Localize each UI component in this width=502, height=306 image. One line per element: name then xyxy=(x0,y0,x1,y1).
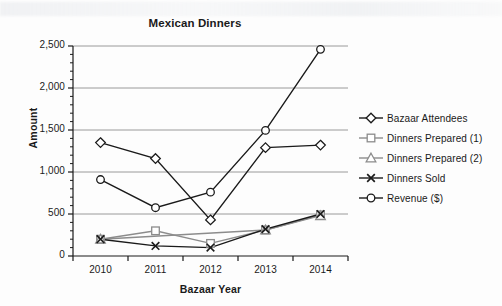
diamond-marker xyxy=(96,138,106,148)
legend-square-icon xyxy=(358,129,384,147)
circle-marker xyxy=(152,204,160,212)
circle-marker xyxy=(262,127,270,135)
legend-item-label: Bazaar Attendees xyxy=(384,113,468,124)
x-tick-label: 2013 xyxy=(238,264,294,275)
circle-marker xyxy=(97,176,105,184)
chart-legend: Bazaar AttendeesDinners Prepared (1)Dinn… xyxy=(358,108,502,208)
x-tick-label: 2011 xyxy=(128,264,184,275)
series-line xyxy=(101,143,321,220)
axes xyxy=(68,46,348,261)
y-tick-label: 1,000 xyxy=(19,165,65,176)
chart-page: Mexican Dinners Amount Bazaar Year 05001… xyxy=(0,0,502,306)
y-tick-label: 2,500 xyxy=(19,39,65,50)
x-tick-label: 2014 xyxy=(293,264,349,275)
legend-circle-icon xyxy=(358,189,384,207)
y-tick-label: 500 xyxy=(19,207,65,218)
series-markers xyxy=(96,46,326,252)
legend-item[interactable]: Dinners Prepared (1) xyxy=(358,128,502,148)
legend-diamond-icon xyxy=(358,109,384,127)
legend-item-label: Revenue ($) xyxy=(384,193,443,204)
legend-item[interactable]: Dinners Sold xyxy=(358,168,502,188)
circle-marker xyxy=(317,46,325,54)
x-tick-label: 2010 xyxy=(73,264,129,275)
legend-item-label: Dinners Sold xyxy=(384,173,445,184)
legend-item[interactable]: Revenue ($) xyxy=(358,188,502,208)
legend-triangle-icon xyxy=(358,149,384,167)
x-tick-label: 2012 xyxy=(183,264,239,275)
y-tick-label: 2,000 xyxy=(19,81,65,92)
y-tick-label: 1,500 xyxy=(19,123,65,134)
legend-item[interactable]: Dinners Prepared (2) xyxy=(358,148,502,168)
circle-marker xyxy=(207,188,215,196)
legend-item-label: Dinners Prepared (2) xyxy=(384,153,482,164)
square-marker xyxy=(152,227,160,235)
diamond-marker xyxy=(316,140,326,150)
legend-x-icon xyxy=(358,169,384,187)
series-line xyxy=(101,49,321,207)
y-tick-label: 0 xyxy=(19,249,65,260)
legend-item[interactable]: Bazaar Attendees xyxy=(358,108,502,128)
legend-item-label: Dinners Prepared (1) xyxy=(384,133,482,144)
